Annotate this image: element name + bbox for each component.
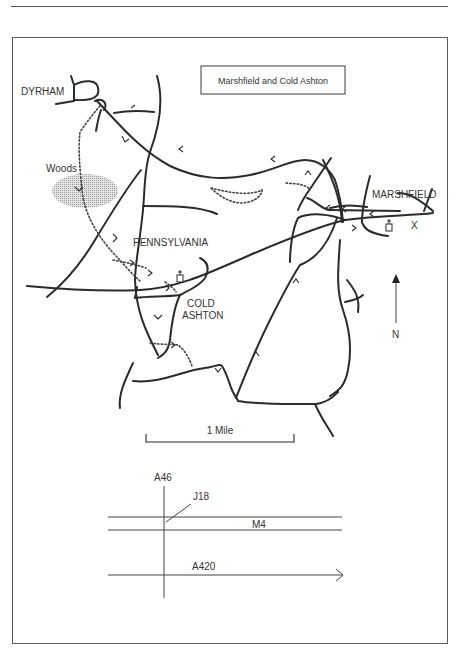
label-woods: Woods	[46, 163, 77, 174]
footpaths	[79, 106, 310, 366]
label-marshfield: MARSHFIELD	[372, 189, 436, 200]
church-icon	[386, 219, 392, 231]
map-title: Marshfield and Cold Ashton	[218, 76, 328, 86]
label-pennsylvania: PENNSYLVANIA	[133, 237, 209, 248]
label-a46: A46	[154, 472, 172, 483]
label-cold: COLD	[187, 298, 215, 309]
label-ashton: ASHTON	[182, 310, 224, 321]
north-label: N	[392, 329, 399, 340]
church-icon	[177, 270, 183, 282]
label-a420: A420	[192, 561, 216, 572]
label-dyrham: DYRHAM	[21, 86, 64, 97]
label-m4: M4	[252, 519, 266, 530]
map-title-box: Marshfield and Cold Ashton	[201, 66, 345, 94]
label-j18: J18	[193, 491, 210, 502]
route-map: Marshfield and Cold Ashton	[0, 0, 467, 667]
north-arrow-icon	[392, 274, 400, 323]
roads	[27, 76, 433, 436]
locator-diagram	[108, 486, 343, 598]
scale-label: 1 Mile	[207, 425, 234, 436]
start-marker-x: X	[411, 220, 418, 231]
